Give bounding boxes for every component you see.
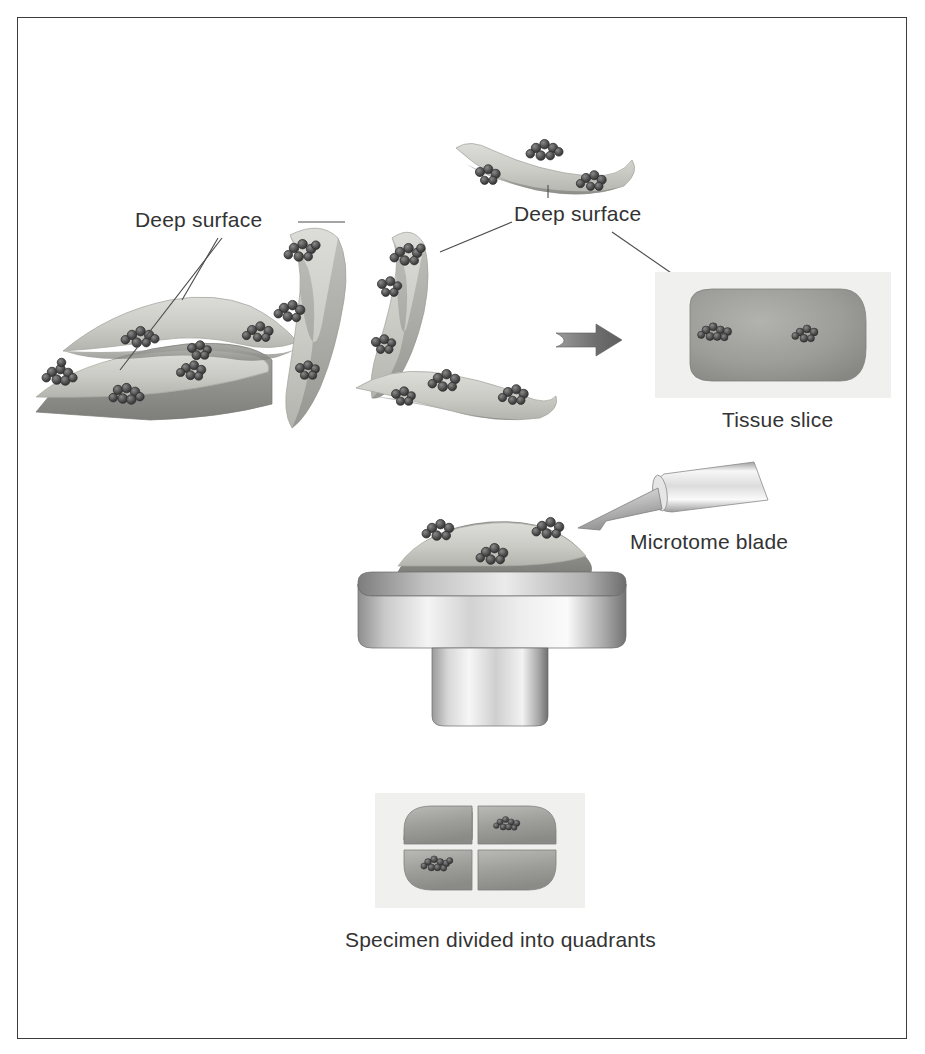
figure-root: Deep surface Deep surface Tissue slice M… bbox=[0, 0, 925, 1054]
figure-frame bbox=[17, 17, 907, 1039]
label-specimen-quadrants: Specimen divided into quadrants bbox=[345, 928, 656, 952]
label-microtome-blade: Microtome blade bbox=[630, 530, 788, 554]
label-tissue-slice: Tissue slice bbox=[722, 408, 833, 432]
label-deep-surface-right: Deep surface bbox=[514, 202, 641, 226]
label-deep-surface-left: Deep surface bbox=[135, 208, 262, 232]
